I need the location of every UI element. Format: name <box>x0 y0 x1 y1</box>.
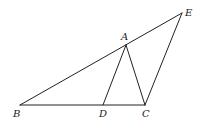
segment-AC <box>126 45 145 105</box>
segment-AD <box>103 45 126 105</box>
label-A: A <box>120 31 128 42</box>
label-B: B <box>12 108 20 119</box>
segment-BE <box>20 13 182 105</box>
label-D: D <box>98 108 107 119</box>
point-labels: A B C D E <box>12 7 193 119</box>
segment-CE <box>145 13 182 105</box>
segments <box>20 13 182 105</box>
label-C: C <box>142 108 150 119</box>
geometry-diagram: A B C D E <box>0 0 207 130</box>
label-E: E <box>184 7 193 18</box>
